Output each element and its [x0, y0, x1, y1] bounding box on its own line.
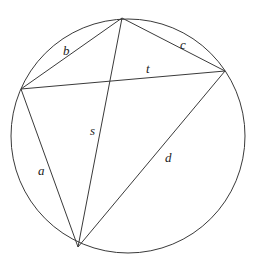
label-a: a [38, 163, 45, 178]
label-t: t [146, 61, 150, 76]
label-s: s [90, 123, 95, 138]
cyclic-quadrilateral-diagram: a b c d s t [0, 0, 255, 269]
label-b: b [63, 43, 70, 58]
side-b-line [21, 18, 122, 89]
diagonal-s-line [78, 18, 122, 247]
label-c: c [180, 37, 186, 52]
side-c-line [122, 18, 225, 71]
diagonal-t-line [21, 71, 225, 89]
circumscribed-circle [11, 19, 245, 253]
label-d: d [165, 150, 172, 165]
side-d-line [78, 71, 225, 247]
